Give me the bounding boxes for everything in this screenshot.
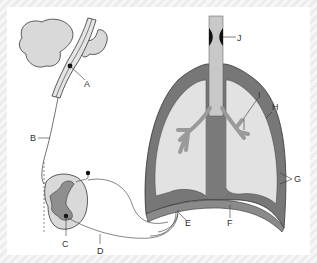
label-j: J	[237, 33, 242, 43]
label-h: H	[272, 102, 279, 112]
label-c: C	[62, 239, 69, 249]
label-f: F	[227, 218, 233, 228]
label-d: D	[97, 246, 104, 256]
label-i: I	[258, 90, 261, 100]
brain-illustration	[19, 18, 107, 98]
label-a: A	[84, 79, 90, 89]
phrenic-nerve	[68, 214, 178, 238]
label-b: B	[30, 133, 36, 143]
respiratory-control-diagram: A B C D	[0, 0, 317, 263]
spinal-cord-section	[44, 162, 88, 236]
label-e: E	[185, 218, 191, 228]
thorax-illustration	[145, 16, 286, 236]
label-g: G	[294, 174, 301, 184]
